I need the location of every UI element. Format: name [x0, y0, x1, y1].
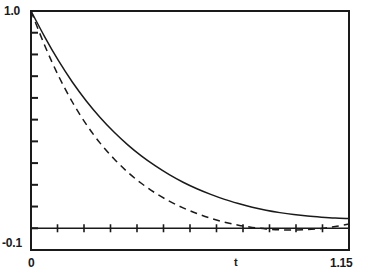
plot-frame [31, 11, 349, 250]
y-axis-max-label: 1.0 [4, 4, 20, 18]
x-axis-variable-label: t [234, 256, 237, 268]
y-axis-tick-group [31, 33, 38, 229]
data-series-group [31, 11, 349, 230]
series-line-solid [31, 11, 349, 219]
x-axis-max-label: 1.15 [330, 256, 353, 270]
series-line-dashed [31, 11, 349, 230]
axes-frame-rect [31, 11, 349, 250]
y-axis-min-label: -0.1 [2, 236, 22, 250]
chart-figure: 1.0 -0.1 0 t 1.15 [0, 0, 368, 274]
chart-plot-area [0, 0, 368, 274]
x-axis-min-label: 0 [28, 256, 34, 270]
